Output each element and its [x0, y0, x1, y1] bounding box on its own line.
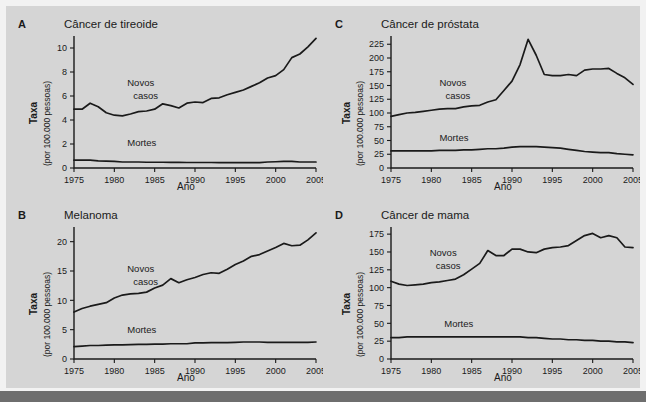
y-tick-label-d-1: 25: [374, 336, 384, 346]
chart-axes-b: [74, 227, 316, 359]
series-label-casos-b: casos: [133, 276, 158, 287]
y-tick-label-d-2: 50: [374, 319, 384, 329]
y-tick-label-a-2: 4: [62, 115, 67, 125]
y-axis-title-a: Taxa: [28, 102, 39, 124]
series-label-novos-casos-c: Novos: [439, 77, 466, 88]
series-line-d-novos-casos: [391, 233, 633, 285]
x-axis-title-b: Ano: [66, 372, 306, 383]
chart-panel-b: B Melanoma Taxa (por 100.000 pessoas) An…: [6, 197, 323, 388]
x-axis-title-a: Ano: [66, 181, 306, 192]
y-tick-label-a-5: 10: [57, 43, 67, 53]
series-line-c-novos-casos: [391, 39, 633, 116]
bottom-rule: [0, 391, 646, 402]
chart-svg-d: 0255075100125150175197519801985199019952…: [323, 197, 640, 388]
y-tick-label-c-4: 100: [369, 108, 384, 118]
y-tick-label-b-1: 5: [62, 325, 67, 335]
y-tick-label-a-1: 2: [62, 139, 67, 149]
series-label-casos-d: casos: [436, 260, 461, 271]
y-axis-subtitle-b: (por 100.000 pessoas): [42, 272, 52, 357]
y-tick-label-d-0: 0: [379, 354, 384, 364]
chart-svg-c: 0255075100125150175200225197519801985199…: [323, 6, 640, 197]
series-label-novos-casos-b: Novos: [127, 263, 154, 274]
y-tick-label-c-8: 200: [369, 53, 384, 63]
series-line-a-mortes: [74, 160, 316, 162]
y-tick-label-a-4: 8: [62, 67, 67, 77]
y-tick-label-b-0: 0: [62, 354, 67, 364]
x-axis-title-c: Ano: [383, 181, 623, 192]
series-label-mortes-d: Mortes: [444, 318, 473, 329]
series-label-mortes-b: Mortes: [127, 324, 156, 335]
y-tick-label-d-4: 100: [369, 283, 384, 293]
y-axis-subtitle-a: (por 100.000 pessoas): [42, 81, 52, 166]
x-tick-label-a-6: 2005: [306, 175, 323, 185]
series-line-d-mortes: [391, 337, 633, 343]
y-tick-label-c-7: 175: [369, 67, 384, 77]
chart-panel-d: D Câncer de mama Taxa (por 100.000 pesso…: [323, 197, 640, 388]
series-label-casos-c: casos: [445, 90, 470, 101]
series-label-novos-casos-a: Novos: [127, 77, 154, 88]
panel-title-d: Câncer de mama: [381, 209, 469, 221]
x-tick-label-c-6: 2005: [623, 175, 640, 185]
y-axis-title-d: Taxa: [341, 293, 352, 315]
y-axis-title-b: Taxa: [28, 293, 39, 315]
figure-panel-area: A Câncer de tireoide Taxa (por 100.000 p…: [6, 6, 640, 388]
y-tick-label-d-3: 75: [374, 301, 384, 311]
y-tick-label-b-4: 20: [57, 237, 67, 247]
figure-root: A Câncer de tireoide Taxa (por 100.000 p…: [0, 0, 646, 402]
y-tick-label-a-3: 6: [62, 91, 67, 101]
y-tick-label-d-7: 175: [369, 229, 384, 239]
chart-panel-a: A Câncer de tireoide Taxa (por 100.000 p…: [6, 6, 323, 197]
y-tick-label-c-3: 75: [374, 122, 384, 132]
panel-letter-b: B: [18, 209, 26, 221]
panel-title-a: Câncer de tireoide: [64, 18, 158, 30]
series-label-novos-casos-d: Novos: [430, 247, 457, 258]
panel-letter-a: A: [18, 18, 26, 30]
chart-svg-b: 051015201975198019851990199520002005Novo…: [6, 197, 323, 388]
chart-axes-d: [391, 227, 633, 359]
y-tick-label-c-9: 225: [369, 39, 384, 49]
panel-title-c: Câncer de próstata: [381, 18, 479, 30]
panel-title-b: Melanoma: [64, 209, 118, 221]
y-axis-title-c: Taxa: [341, 102, 352, 124]
series-line-a-novos-casos: [74, 38, 316, 115]
y-tick-label-b-3: 15: [57, 266, 67, 276]
panel-letter-c: C: [335, 18, 343, 30]
y-tick-label-b-2: 10: [57, 296, 67, 306]
y-tick-label-c-6: 150: [369, 81, 384, 91]
y-axis-subtitle-d: (por 100.000 pessoas): [355, 272, 365, 357]
y-tick-label-c-0: 0: [379, 163, 384, 173]
series-line-b-novos-casos: [74, 233, 316, 312]
y-tick-label-d-6: 150: [369, 247, 384, 257]
series-label-mortes-c: Mortes: [439, 132, 468, 143]
series-line-b-mortes: [74, 342, 316, 347]
chart-axes-c: [391, 36, 633, 168]
x-tick-label-b-6: 2005: [306, 366, 323, 376]
series-line-c-mortes: [391, 147, 633, 155]
y-tick-label-a-0: 0: [62, 163, 67, 173]
y-tick-label-c-2: 50: [374, 136, 384, 146]
chart-panel-c: C Câncer de próstata Taxa (por 100.000 p…: [323, 6, 640, 197]
series-label-mortes-a: Mortes: [127, 137, 156, 148]
y-tick-label-c-5: 125: [369, 94, 384, 104]
x-tick-label-d-6: 2005: [623, 366, 640, 376]
panel-letter-d: D: [335, 209, 343, 221]
y-axis-subtitle-c: (por 100.000 pessoas): [355, 81, 365, 166]
y-tick-label-d-5: 125: [369, 265, 384, 275]
x-axis-title-d: Ano: [383, 372, 623, 383]
y-tick-label-c-1: 25: [374, 149, 384, 159]
chart-svg-a: 02468101975198019851990199520002005Novos…: [6, 6, 323, 197]
series-label-casos-a: casos: [133, 90, 158, 101]
